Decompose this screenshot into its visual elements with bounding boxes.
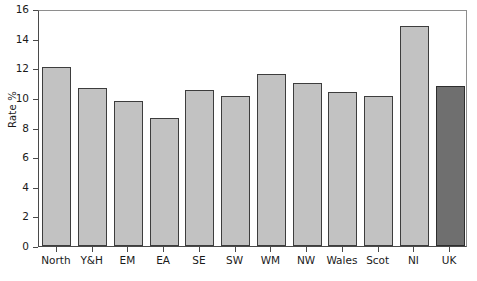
x-axis-label-north: North [41,254,70,266]
x-axis-tick [163,247,164,252]
x-axis-label-em: EM [120,254,136,266]
bar-nw [293,83,322,246]
x-axis-tick [127,247,128,252]
x-axis-tick [199,247,200,252]
bar-em [114,101,143,246]
x-axis-label-ea: EA [156,254,170,266]
x-axis-label-nw: NW [297,254,315,266]
bar-ni [400,26,429,246]
bar-wales [328,92,357,246]
y-tick-label: 16 [16,3,29,15]
y-tick-label: 6 [22,151,29,163]
x-axis-label-ni: NI [408,254,419,266]
x-axis-tick [413,247,414,252]
x-axis-label-uk: UK [442,254,457,266]
bar-series [39,11,466,246]
plot-area [38,10,467,247]
y-tick-label: 4 [22,181,29,193]
x-axis-tick [92,247,93,252]
bar-sw [221,96,250,246]
y-axis-title: Rate % [7,70,18,150]
bar-north [42,67,71,246]
bar-scot [364,96,393,246]
x-axis-label-se: SE [192,254,205,266]
bar-ea [150,118,179,246]
y-tick-label: 14 [16,33,29,45]
x-axis-label-wales: Wales [326,254,357,266]
x-axis-tick [56,247,57,252]
y-tick-label: 12 [16,62,29,74]
y-tick-label: 2 [22,210,29,222]
x-axis-label-y-h: Y&H [80,254,103,266]
bar-se [185,90,214,246]
x-axis-label-wm: WM [261,254,280,266]
x-axis-label-sw: SW [226,254,243,266]
x-axis-tick [342,247,343,252]
y-tick-mark [33,247,38,248]
x-axis-tick [378,247,379,252]
y-tick-label: 8 [22,122,29,134]
x-axis-tick [449,247,450,252]
bar-chart: Rate % 0246810121416 NorthY&HEMEASESWWMN… [0,0,477,281]
x-axis-tick [235,247,236,252]
x-axis-tick [270,247,271,252]
x-axis-label-scot: Scot [366,254,389,266]
bar-uk [436,86,465,246]
bar-wm [257,74,286,246]
bar-y-h [78,88,107,246]
x-axis-tick [306,247,307,252]
y-tick-label: 0 [22,240,29,252]
y-tick-label: 10 [16,92,29,104]
